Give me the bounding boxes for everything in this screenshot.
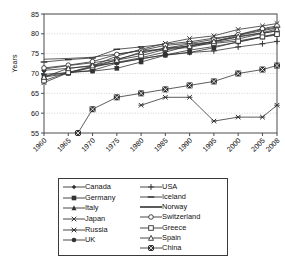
- legend-item[interactable]: Italy: [63, 203, 140, 214]
- series-greece: [42, 32, 280, 83]
- legend-marker-line-only: [140, 202, 162, 212]
- x-tick-label: 1960: [31, 136, 49, 154]
- y-tick-label: 85: [31, 10, 39, 19]
- legend-label: USA: [162, 182, 177, 192]
- legend-item[interactable]: China: [140, 243, 225, 253]
- legend-label: Canada: [85, 182, 111, 192]
- legend-marker-filled-square: [63, 193, 85, 203]
- data-point-open-circle: [42, 66, 47, 71]
- data-point-filled-circle: [72, 238, 77, 243]
- chart-container: Years 5560657075808519601965197019751980…: [0, 0, 285, 175]
- legend-marker-filled-triangle: [63, 203, 85, 213]
- legend-label: Norway: [162, 202, 187, 212]
- legend-column-left: CanadaGermanyItalyJapanRussiaUK: [63, 182, 140, 253]
- data-point-open-square: [149, 225, 154, 230]
- legend-marker-open-triangle: [140, 233, 162, 243]
- legend-item[interactable]: Canada: [63, 182, 140, 193]
- legend-label: Japan: [85, 214, 105, 224]
- y-tick-label: 55: [31, 129, 39, 138]
- x-tick-label: 2000: [225, 136, 243, 154]
- legend-marker-plus: [140, 182, 162, 192]
- y-tick-label: 65: [31, 89, 39, 98]
- y-tick-label: 70: [31, 69, 39, 78]
- data-point-filled-square: [115, 66, 120, 71]
- legend-item[interactable]: USA: [140, 182, 225, 192]
- legend-marker-short-dash: [140, 192, 162, 202]
- legend-item[interactable]: Japan: [63, 214, 140, 225]
- x-tick-label: 2005: [249, 136, 267, 154]
- legend-item[interactable]: Germany: [63, 193, 140, 204]
- data-point-open-circle: [115, 52, 120, 57]
- legend-item[interactable]: UK: [63, 235, 140, 246]
- legend-item[interactable]: Russia: [63, 224, 140, 235]
- y-tick-label: 80: [31, 29, 39, 38]
- x-tick-label: 1995: [201, 136, 219, 154]
- legend-label: Greece: [162, 223, 186, 233]
- data-point-open-circle: [149, 215, 154, 220]
- data-point-open-square: [275, 32, 280, 37]
- x-tick-label: 1970: [79, 136, 97, 154]
- legend-label: Germany: [85, 193, 115, 203]
- data-point-filled-square: [72, 196, 77, 201]
- legend-marker-filled-circle: [63, 235, 85, 245]
- data-point-open-square: [236, 39, 241, 44]
- legend-label: China: [162, 243, 181, 253]
- line-chart-svg: 5560657075808519601965197019751980198519…: [0, 0, 285, 175]
- series-switzerland: [42, 24, 280, 71]
- y-axis-title: Years: [11, 34, 18, 94]
- legend-marker-star-burst: [63, 225, 85, 235]
- x-tick-label: 1980: [128, 136, 146, 154]
- legend-marker-open-square: [140, 223, 162, 233]
- legend-label: Switzerland: [162, 212, 200, 222]
- legend-marker-filled-square-x: [140, 243, 162, 253]
- legend-column-right: USAIcelandNorwaySwitzerlandGreeceSpainCh…: [140, 182, 225, 253]
- legend-marker-filled-diamond: [63, 182, 85, 192]
- legend-item[interactable]: Greece: [140, 223, 225, 233]
- legend-item[interactable]: Spain: [140, 233, 225, 243]
- series-uk: [42, 33, 280, 73]
- series-russia: [138, 95, 280, 123]
- x-tick-label: 1990: [176, 136, 194, 154]
- legend-marker-open-circle: [140, 212, 162, 222]
- chart-screenshot: Years 5560657075808519601965197019751980…: [0, 0, 285, 263]
- x-tick-label: 1975: [104, 136, 122, 154]
- y-tick-label: 75: [31, 49, 39, 58]
- data-point-open-triangle: [149, 235, 154, 240]
- x-tick-label: 2008: [264, 136, 282, 154]
- x-tick-label: 1985: [152, 136, 170, 154]
- legend-item[interactable]: Switzerland: [140, 212, 225, 222]
- series-line: [141, 97, 277, 121]
- legend-item[interactable]: Norway: [140, 202, 225, 212]
- data-point-filled-diamond: [72, 185, 77, 190]
- legend-label: UK: [85, 235, 95, 245]
- legend-label: Italy: [85, 203, 99, 213]
- series-line: [44, 26, 277, 68]
- legend-label: Russia: [85, 225, 108, 235]
- legend-label: Spain: [162, 233, 181, 243]
- legend-label: Iceland: [162, 192, 186, 202]
- legend-marker-cross-x: [63, 214, 85, 224]
- y-tick-label: 60: [31, 109, 39, 118]
- series-line: [78, 66, 277, 133]
- legend-item[interactable]: Iceland: [140, 192, 225, 202]
- x-tick-label: 1965: [55, 136, 73, 154]
- chart-legend: CanadaGermanyItalyJapanRussiaUK USAIcela…: [58, 178, 228, 256]
